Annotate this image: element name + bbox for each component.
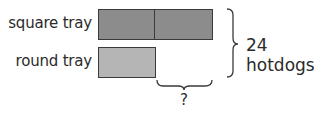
difference-label: ? xyxy=(180,91,188,109)
total-brace xyxy=(227,9,238,77)
total-label: 24 hotdogs xyxy=(246,35,336,75)
difference-brace xyxy=(157,80,212,90)
